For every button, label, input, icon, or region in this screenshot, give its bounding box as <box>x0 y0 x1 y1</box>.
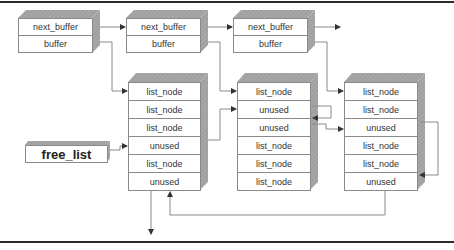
buffer-2-next-buffer: next_buffer <box>126 18 201 36</box>
free-list-box: free_list <box>25 145 108 163</box>
col3-cell-3: unused <box>344 118 418 137</box>
col3-cell-6: unused <box>344 172 418 191</box>
col2-cell-4: list_node <box>237 136 311 155</box>
col1-cell-6: unused <box>128 172 201 191</box>
col2-cell-2: unused <box>237 100 311 119</box>
col2-cell-1: list_node <box>237 82 311 101</box>
buffer-1-buffer: buffer <box>18 35 93 53</box>
buffer-1-next-buffer: next_buffer <box>18 18 93 36</box>
col2-cell-5: list_node <box>237 154 311 173</box>
buffer-3-next-buffer: next_buffer <box>233 18 308 36</box>
col1-cell-4: unused <box>128 136 201 155</box>
col2-cell-6: list_node <box>237 172 311 191</box>
col3-cell-1: list_node <box>344 82 418 101</box>
col2-cell-3: unused <box>237 118 311 137</box>
col3-cell-4: list_node <box>344 136 418 155</box>
col3-cell-2: list_node <box>344 100 418 119</box>
col1-cell-5: list_node <box>128 154 201 173</box>
col1-cell-1: list_node <box>128 82 201 101</box>
buffer-3-buffer: buffer <box>233 35 308 53</box>
col1-cell-2: list_node <box>128 100 201 119</box>
buffer-2-buffer: buffer <box>126 35 201 53</box>
col1-cell-3: list_node <box>128 118 201 137</box>
col3-cell-5: list_node <box>344 154 418 173</box>
